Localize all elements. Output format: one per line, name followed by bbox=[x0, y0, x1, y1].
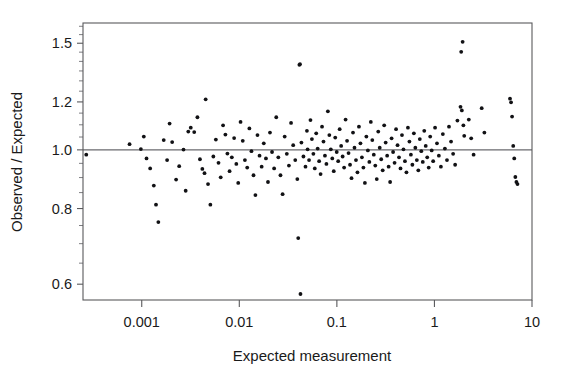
y-tick-label: 1.0 bbox=[52, 142, 72, 158]
data-point bbox=[363, 181, 367, 185]
data-point bbox=[200, 167, 204, 171]
data-point bbox=[421, 160, 425, 164]
x-tick-label: 10 bbox=[524, 314, 540, 330]
data-point bbox=[221, 123, 225, 127]
data-point bbox=[449, 140, 453, 144]
data-point bbox=[289, 121, 293, 125]
data-point bbox=[443, 147, 447, 151]
data-point bbox=[453, 163, 457, 167]
data-point bbox=[415, 158, 419, 162]
data-point bbox=[430, 148, 434, 152]
data-point bbox=[345, 139, 349, 143]
plot-canvas: 0.60.81.01.21.5 0.0010.010.1110 Observed… bbox=[0, 0, 562, 374]
data-point bbox=[336, 159, 340, 163]
data-point bbox=[402, 147, 406, 151]
data-point bbox=[353, 146, 357, 150]
data-point bbox=[139, 147, 143, 151]
data-point bbox=[403, 159, 407, 163]
data-point bbox=[406, 126, 410, 130]
data-point bbox=[472, 153, 476, 157]
data-point bbox=[196, 115, 200, 119]
y-axis-minor-ticks bbox=[79, 26, 83, 263]
data-point bbox=[405, 170, 409, 174]
data-point bbox=[306, 147, 310, 151]
data-point bbox=[266, 180, 270, 184]
data-point bbox=[408, 140, 412, 144]
data-point bbox=[379, 157, 383, 161]
data-point bbox=[369, 120, 373, 124]
data-point bbox=[304, 165, 308, 169]
data-point bbox=[342, 166, 346, 170]
x-axis-major-ticks bbox=[142, 300, 532, 307]
data-point bbox=[416, 168, 420, 172]
data-point bbox=[319, 172, 323, 176]
data-point bbox=[309, 118, 313, 122]
data-point bbox=[250, 149, 254, 153]
data-point bbox=[241, 139, 245, 143]
y-axis-tick-labels: 0.60.81.01.21.5 bbox=[52, 35, 72, 292]
data-point bbox=[425, 155, 429, 159]
data-point bbox=[381, 168, 385, 172]
data-point bbox=[338, 127, 342, 131]
data-point bbox=[510, 115, 514, 119]
data-point bbox=[128, 142, 132, 146]
data-point bbox=[148, 166, 152, 170]
data-point bbox=[228, 169, 232, 173]
data-point bbox=[431, 159, 435, 163]
data-point bbox=[391, 150, 395, 154]
data-point bbox=[299, 292, 303, 296]
y-axis-title: Observed / Expected bbox=[8, 92, 25, 232]
data-point bbox=[351, 131, 355, 135]
data-point bbox=[236, 181, 240, 185]
data-point bbox=[305, 129, 309, 133]
data-point bbox=[165, 158, 169, 162]
data-point bbox=[230, 155, 234, 159]
data-point bbox=[316, 147, 320, 151]
data-point bbox=[419, 149, 423, 153]
data-point bbox=[285, 152, 289, 156]
data-point bbox=[302, 155, 306, 159]
data-point bbox=[287, 164, 291, 168]
data-point bbox=[174, 178, 178, 182]
data-point bbox=[296, 236, 300, 240]
data-point bbox=[461, 40, 465, 44]
data-point bbox=[232, 136, 236, 140]
data-point bbox=[198, 157, 202, 161]
data-point bbox=[372, 153, 376, 157]
data-point bbox=[390, 136, 394, 140]
data-point bbox=[325, 162, 329, 166]
data-point bbox=[424, 144, 428, 148]
data-point bbox=[254, 193, 258, 197]
data-point bbox=[295, 177, 299, 181]
data-point bbox=[459, 105, 463, 109]
data-point bbox=[208, 203, 212, 207]
data-point bbox=[217, 161, 221, 165]
data-point bbox=[170, 140, 174, 144]
data-point bbox=[333, 136, 337, 140]
data-point bbox=[223, 133, 227, 137]
data-point bbox=[243, 158, 247, 162]
data-point bbox=[508, 97, 512, 101]
scatter-plot-figure: 0.60.81.01.21.5 0.0010.010.1110 Observed… bbox=[0, 0, 562, 374]
y-tick-label: 1.2 bbox=[52, 94, 72, 110]
data-point bbox=[300, 141, 304, 145]
data-point bbox=[373, 164, 377, 168]
data-point bbox=[274, 115, 278, 119]
x-tick-label: 0.1 bbox=[327, 314, 347, 330]
data-point bbox=[293, 158, 297, 162]
data-point bbox=[320, 125, 324, 129]
data-point bbox=[433, 126, 437, 130]
data-point bbox=[362, 166, 366, 170]
data-point bbox=[252, 173, 256, 177]
data-point bbox=[203, 171, 207, 175]
data-point bbox=[327, 133, 331, 137]
data-point bbox=[142, 135, 146, 139]
data-point bbox=[451, 152, 455, 156]
data-point bbox=[462, 134, 466, 138]
data-point bbox=[511, 144, 515, 148]
data-point bbox=[482, 131, 486, 135]
data-point bbox=[258, 154, 262, 158]
data-point bbox=[385, 154, 389, 158]
data-point bbox=[366, 148, 370, 152]
data-point bbox=[186, 130, 190, 134]
